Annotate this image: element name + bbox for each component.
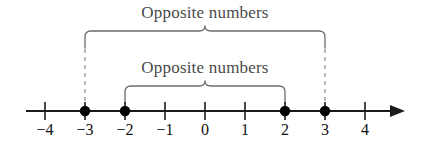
inner-brace <box>125 81 285 103</box>
outer-brace <box>85 26 325 48</box>
point-marker-2 <box>280 106 290 116</box>
point-marker--3 <box>80 106 90 116</box>
tick-label--4: −4 <box>25 121 65 139</box>
tick-label-0: 0 <box>185 121 225 139</box>
tick-label-1: 1 <box>225 121 265 139</box>
number-line-figure: Opposite numbers Opposite numbers −4 −3 … <box>0 0 425 144</box>
axis-arrowhead-right <box>390 105 405 117</box>
point-marker--2 <box>120 106 130 116</box>
tick-label-4: 4 <box>345 121 385 139</box>
tick-label--1: −1 <box>145 121 185 139</box>
inner-brace-label: Opposite numbers <box>141 58 268 78</box>
tick-label--2: −2 <box>105 121 145 139</box>
tick-label-2: 2 <box>265 121 305 139</box>
tick-label-3: 3 <box>305 121 345 139</box>
tick-label--3: −3 <box>65 121 105 139</box>
point-marker-3 <box>320 106 330 116</box>
outer-brace-label: Opposite numbers <box>141 3 268 23</box>
